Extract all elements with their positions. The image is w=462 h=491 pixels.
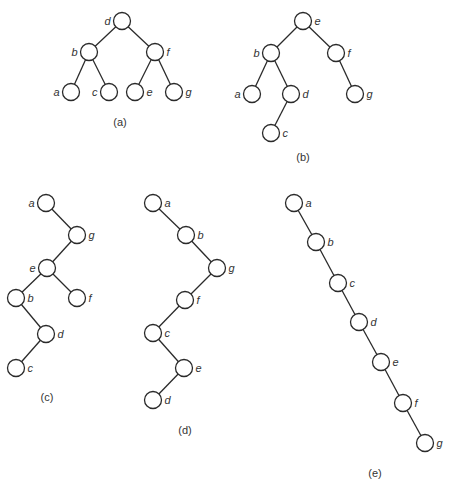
node-b <box>263 45 280 62</box>
node-label: a <box>53 86 59 98</box>
node-label: b <box>28 292 34 304</box>
node-e <box>176 360 193 377</box>
node-d <box>283 86 300 103</box>
node-c <box>8 360 25 377</box>
node-label: g <box>229 262 236 274</box>
node-label: b <box>71 46 77 58</box>
node-label: c <box>28 362 34 374</box>
node-label: c <box>283 127 289 139</box>
node-label: a <box>165 197 171 209</box>
tree-caption: (e) <box>368 467 381 479</box>
node-label: d <box>303 88 310 100</box>
node-label: a <box>234 88 240 100</box>
node-label: e <box>393 356 399 368</box>
node-g <box>417 435 434 452</box>
node-a <box>145 195 162 212</box>
tree-caption: (d) <box>178 424 191 436</box>
node-label: a <box>306 197 312 209</box>
node-label: g <box>367 88 374 100</box>
node-label: c <box>350 277 356 289</box>
node-label: c <box>165 327 171 339</box>
tree-caption: (c) <box>41 391 54 403</box>
tree-d: abgfced(d) <box>145 195 236 437</box>
tree-b: ebfadgc(b) <box>234 13 373 164</box>
node-c <box>263 125 280 142</box>
node-f <box>177 292 194 309</box>
node-a <box>38 195 55 212</box>
node-label: e <box>196 362 202 374</box>
node-a <box>244 86 261 103</box>
node-e <box>295 13 312 30</box>
node-label: f <box>197 294 201 306</box>
node-label: g <box>89 229 96 241</box>
node-label: d <box>371 316 378 328</box>
node-d <box>38 326 55 343</box>
node-label: b <box>253 47 259 59</box>
node-f <box>147 44 164 61</box>
node-e <box>127 84 144 101</box>
node-label: g <box>186 86 193 98</box>
node-label: e <box>315 15 321 27</box>
node-g <box>209 260 226 277</box>
bst-figure: dbfaceg(a) ebfadgc(b) agebfdc(c) abgfced… <box>0 0 462 491</box>
node-b <box>308 234 325 251</box>
node-b <box>8 290 25 307</box>
node-label: c <box>92 86 98 98</box>
node-g <box>166 84 183 101</box>
node-label: b <box>328 236 334 248</box>
node-label: d <box>58 328 65 340</box>
tree-a: dbfaceg(a) <box>53 13 192 129</box>
node-c <box>145 325 162 342</box>
node-c <box>101 84 118 101</box>
node-label: g <box>437 437 444 449</box>
node-b <box>81 44 98 61</box>
node-d <box>351 314 368 331</box>
node-label: d <box>104 15 111 27</box>
node-label: b <box>198 229 204 241</box>
node-label: f <box>348 47 352 59</box>
node-f <box>395 395 412 412</box>
node-label: f <box>415 397 419 409</box>
node-a <box>63 84 80 101</box>
node-label: e <box>29 262 35 274</box>
node-b <box>178 227 195 244</box>
tree-e: abcdefg(e) <box>286 195 444 480</box>
tree-c: agebfdc(c) <box>8 195 96 404</box>
tree-caption: (b) <box>296 151 309 163</box>
node-c <box>330 275 347 292</box>
node-label: d <box>165 394 172 406</box>
node-label: f <box>89 292 93 304</box>
node-e <box>373 354 390 371</box>
node-label: f <box>167 46 171 58</box>
node-d <box>145 392 162 409</box>
node-a <box>286 195 303 212</box>
node-f <box>69 290 86 307</box>
node-g <box>347 86 364 103</box>
node-g <box>69 227 86 244</box>
node-label: a <box>28 197 34 209</box>
node-d <box>114 13 131 30</box>
tree-caption: (a) <box>113 116 126 128</box>
node-e <box>39 260 56 277</box>
node-f <box>328 45 345 62</box>
node-label: e <box>147 86 153 98</box>
